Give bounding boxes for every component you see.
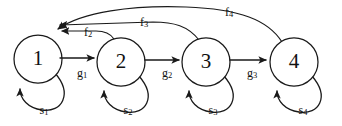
edge-label-s4: s4 <box>299 103 309 118</box>
diagram-canvas: 1 2 3 4 g1 g2 g3 s1 s2 s3 s4 f2 f3 f4 <box>0 0 342 126</box>
edge-label-s2: s2 <box>124 103 133 118</box>
node-4-label: 4 <box>289 49 300 73</box>
edge-label-group: g1 g2 g3 s1 s2 s3 s4 f2 f3 f4 <box>40 5 309 118</box>
node-3-label: 3 <box>201 49 212 73</box>
edge-label-g3: g3 <box>247 66 257 81</box>
node-2-label: 2 <box>116 49 127 73</box>
node-1-label: 1 <box>33 46 44 70</box>
edge-label-s3: s3 <box>209 103 218 118</box>
edge-label-f2: f2 <box>84 25 92 40</box>
edge-label-g1: g1 <box>77 66 87 81</box>
forward-edge-group <box>60 58 266 60</box>
edge-label-g2: g2 <box>162 66 172 81</box>
state-transition-diagram: 1 2 3 4 g1 g2 g3 s1 s2 s3 s4 f2 f3 f4 <box>0 0 342 126</box>
edge-label-f4: f4 <box>225 5 234 20</box>
edge-label-f3: f3 <box>140 15 148 30</box>
edge-label-s1: s1 <box>40 103 49 118</box>
